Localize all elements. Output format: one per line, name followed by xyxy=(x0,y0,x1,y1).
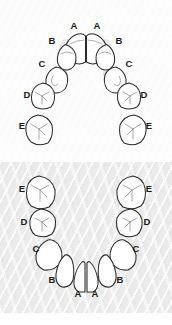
upper-label-B-left: B xyxy=(49,36,56,46)
mandibular-arch-panel: E E D D C C B B A A xyxy=(0,162,172,313)
upper-left-first-molar-D xyxy=(31,83,54,109)
lower-label-E-right: E xyxy=(146,184,152,194)
maxillary-arch-panel: A A B B C C D D E E xyxy=(0,0,172,162)
lower-label-D-right: D xyxy=(144,217,151,227)
lower-label-C-right: C xyxy=(133,244,140,254)
upper-label-C-right: C xyxy=(126,59,133,69)
lower-label-B-left: B xyxy=(49,275,56,285)
lower-label-A-right: A xyxy=(92,289,99,299)
upper-label-B-right: B xyxy=(116,36,123,46)
upper-label-D-right: D xyxy=(141,90,148,100)
upper-label-E-left: E xyxy=(19,121,25,131)
maxillary-arch-drawing xyxy=(0,0,172,162)
lower-label-E-left: E xyxy=(19,184,25,194)
dental-arch-figure: A A B B C C D D E E xyxy=(0,0,172,325)
lower-label-B-right: B xyxy=(117,275,124,285)
lower-left-second-molar-E xyxy=(27,176,56,209)
upper-label-A-right: A xyxy=(94,21,101,31)
lower-label-D-left: D xyxy=(21,217,28,227)
lower-label-C-left: C xyxy=(33,244,40,254)
lower-right-second-molar-E xyxy=(117,176,146,209)
upper-label-A-left: A xyxy=(71,21,78,31)
upper-label-C-left: C xyxy=(39,59,46,69)
upper-right-first-molar-D xyxy=(117,83,140,109)
upper-label-E-right: E xyxy=(146,121,152,131)
upper-label-D-left: D xyxy=(24,90,31,100)
lower-label-A-left: A xyxy=(75,289,82,299)
